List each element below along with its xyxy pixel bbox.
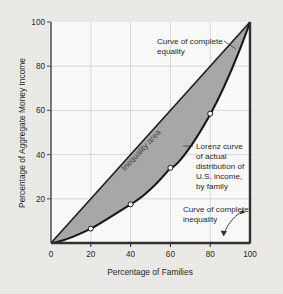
xtick-label-40: 40 — [126, 250, 136, 259]
xtick-label-60: 60 — [166, 250, 176, 259]
lorenz-curve-figure: 100 80 60 40 20 0 20 40 60 80 100 Percen… — [0, 0, 283, 294]
annotation-lorenz-line-1: Lorenz curve — [196, 142, 243, 151]
chart-svg: 100 80 60 40 20 0 20 40 60 80 100 Percen… — [0, 0, 283, 294]
xtick-label-80: 80 — [206, 250, 216, 259]
annotation-lorenz-line-3: distribution of — [196, 162, 245, 171]
data-point-60 — [168, 165, 173, 170]
data-point-80 — [208, 111, 213, 116]
annotation-inequality-line-1: Curve of complete — [183, 205, 249, 214]
ytick-label-100: 100 — [31, 18, 45, 27]
data-point-20 — [88, 226, 93, 231]
ytick-label-80: 80 — [36, 62, 46, 71]
annotation-lorenz-line-2: of actual — [196, 152, 227, 161]
annotation-inequality-line-2: inequality — [183, 215, 218, 224]
ytick-label-40: 40 — [36, 151, 46, 160]
y-axis-title: Percentage of Aggregate Money Income — [17, 58, 27, 208]
annotation-lorenz-line-4: U.S. income, — [196, 172, 242, 181]
xtick-label-0: 0 — [49, 250, 54, 259]
data-point-40 — [128, 202, 133, 207]
xtick-label-100: 100 — [243, 250, 257, 259]
annotation-equality-line-2: equality — [157, 47, 186, 56]
annotation-lorenz-line-5: by family — [196, 182, 229, 191]
x-axis-title: Percentage of Families — [107, 267, 193, 277]
ytick-label-20: 20 — [36, 195, 46, 204]
ytick-label-60: 60 — [36, 106, 46, 115]
annotation-equality-line-1: Curve of complete — [157, 37, 223, 46]
xtick-label-20: 20 — [86, 250, 96, 259]
